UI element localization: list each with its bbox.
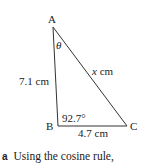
angle-b-label: 92.7° (62, 112, 86, 124)
vertex-a-label: A (48, 13, 56, 25)
question-text: Using the cosine rule, (14, 150, 114, 162)
question-letter: a (2, 151, 8, 162)
angle-theta-label: θ (56, 39, 62, 51)
side-ac-label: x cm (91, 65, 114, 77)
triangle-diagram: A B C θ 92.7° 7.1 cm 4.7 cm x cm (0, 0, 145, 145)
vertex-c-label: C (130, 120, 137, 132)
side-bc-label: 4.7 cm (78, 127, 108, 139)
vertex-b-label: B (46, 120, 53, 132)
question-part-a: aUsing the cosine rule, (2, 150, 114, 162)
side-ab-label: 7.1 cm (19, 75, 49, 87)
side-ac-unit: cm (97, 65, 114, 77)
